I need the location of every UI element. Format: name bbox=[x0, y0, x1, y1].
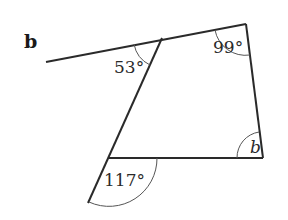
angle-label-117: 117° bbox=[104, 170, 145, 190]
angle-label-53: 53° bbox=[114, 57, 144, 77]
angle-label-99: 99° bbox=[213, 37, 243, 57]
geometry-diagram: b 53° 99° b 117° bbox=[0, 0, 288, 220]
angle-label-b: b bbox=[250, 137, 261, 157]
part-label: b bbox=[24, 30, 37, 52]
